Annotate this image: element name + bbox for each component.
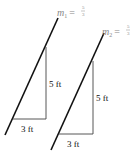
diagram-svg: 5 ft 3 ft m1= 5 3 5 ft 3 ft m2= 5 3 [0, 0, 133, 157]
right-figure: 5 ft 3 ft m2= 5 3 [51, 24, 130, 150]
right-slope-numerator: 5 [127, 24, 130, 29]
left-slope-numerator: 5 [82, 5, 85, 10]
left-rise-label: 5 ft [49, 79, 62, 89]
right-run-label: 3 ft [67, 139, 80, 149]
left-line [5, 18, 58, 135]
left-figure: 5 ft 3 ft m1= 5 3 [5, 5, 85, 135]
right-slope-label: m2= [102, 26, 120, 38]
right-line [51, 33, 104, 150]
right-slope-triangle [59, 61, 93, 134]
right-rise-label: 5 ft [96, 93, 109, 103]
left-slope-denominator: 3 [82, 12, 85, 17]
right-slope-denominator: 3 [127, 31, 130, 36]
parallel-slopes-diagram: 5 ft 3 ft m1= 5 3 5 ft 3 ft m2= 5 3 [0, 0, 133, 157]
left-slope-label: m1= [57, 7, 75, 19]
left-run-label: 3 ft [21, 124, 34, 134]
